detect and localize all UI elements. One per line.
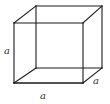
depth-edge-label: a bbox=[93, 75, 99, 86]
left-edge-label: a bbox=[4, 45, 10, 56]
depth-edges bbox=[14, 6, 102, 83]
cube-diagram: a a a bbox=[0, 0, 110, 104]
front-face bbox=[14, 23, 83, 83]
depth-top-left-edge bbox=[14, 6, 36, 23]
bottom-edge-label: a bbox=[40, 90, 46, 101]
depth-top-right-edge bbox=[83, 6, 102, 23]
depth-bottom-left-edge bbox=[14, 68, 36, 83]
